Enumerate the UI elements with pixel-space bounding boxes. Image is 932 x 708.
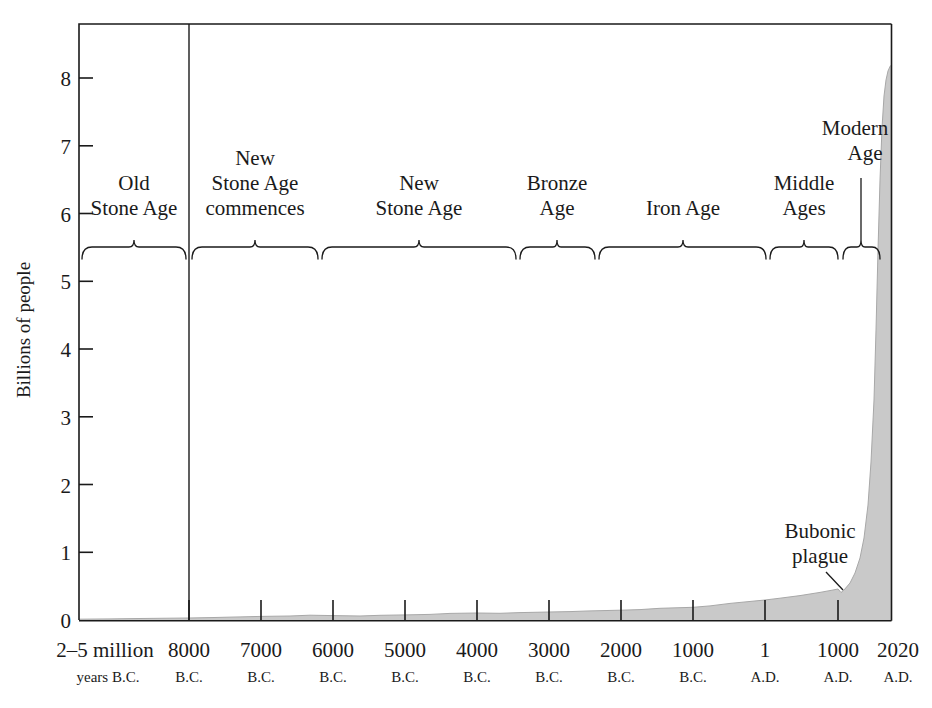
brace-modern-age: [843, 240, 880, 259]
brace-iron-age: [599, 240, 766, 259]
era-label-new-stone-commences-line1: New: [235, 146, 275, 170]
y-tick-label-3: 3: [61, 406, 72, 430]
x-tick-label-2-5-million-sub: years B.C.: [77, 669, 140, 685]
era-label-modern-age-line1: Modern: [822, 116, 889, 140]
brace-new-stone-age-commences: [192, 240, 318, 259]
x-axis-tick-labels: 2–5 million years B.C. 8000 B.C. 7000 B.…: [56, 638, 919, 685]
era-braces: [82, 240, 880, 259]
y-tick-label-5: 5: [61, 270, 72, 294]
bubonic-plague-annotation: Bubonic plague: [784, 519, 855, 590]
x-tick-label-1000bc-sub: B.C.: [679, 669, 707, 685]
x-tick-label-6000bc-sub: B.C.: [319, 669, 347, 685]
era-label-new-stone-age-line1: New: [399, 171, 439, 195]
era-label-new-stone-commences-line3: commences: [205, 196, 304, 220]
x-tick-label-8000bc-sub: B.C.: [175, 669, 203, 685]
brace-middle-ages: [770, 240, 838, 259]
x-tick-label-2000bc-main: 2000: [600, 638, 642, 662]
x-tick-label-3000bc-sub: B.C.: [535, 669, 563, 685]
y-tick-label-6: 6: [61, 203, 72, 227]
x-tick-label-1ad-main: 1: [760, 638, 771, 662]
brace-bronze-age: [520, 240, 595, 259]
era-label-middle-ages-line2: Ages: [782, 196, 825, 220]
y-axis-tick-labels: 8 7 6 5 4 3 2 1 0: [61, 67, 72, 633]
population-area-fill: [79, 65, 892, 620]
x-tick-label-1000bc-main: 1000: [672, 638, 714, 662]
y-tick-label-1: 1: [61, 541, 72, 565]
x-tick-label-1ad-sub: A.D.: [750, 669, 779, 685]
x-tick-label-7000bc-sub: B.C.: [247, 669, 275, 685]
chart-canvas: 8 7 6 5 4 3 2 1 0 Billions of people: [0, 0, 932, 708]
population-curve-line: [79, 65, 892, 619]
x-tick-label-5000bc-main: 5000: [384, 638, 426, 662]
bubonic-plague-label-line2: plague: [792, 544, 848, 568]
x-tick-label-4000bc-main: 4000: [456, 638, 498, 662]
y-tick-label-2: 2: [61, 474, 72, 498]
era-label-old-stone-age-line1: Old: [118, 171, 150, 195]
era-label-iron-age: Iron Age: [646, 196, 720, 220]
y-axis-ticks: [79, 78, 93, 552]
x-tick-label-1000ad-main: 1000: [817, 638, 859, 662]
x-tick-label-5000bc-sub: B.C.: [391, 669, 419, 685]
era-label-modern-age-line2: Age: [848, 141, 883, 165]
x-tick-label-7000bc-main: 7000: [240, 638, 282, 662]
plot-frame-top-left: [79, 24, 892, 620]
era-label-middle-ages-line1: Middle: [774, 171, 835, 195]
y-tick-label-8: 8: [61, 67, 72, 91]
brace-old-stone-age: [82, 240, 186, 259]
x-tick-label-8000bc-main: 8000: [168, 638, 210, 662]
x-tick-label-2000bc-sub: B.C.: [607, 669, 635, 685]
era-label-new-stone-commences-line2: Stone Age: [212, 171, 299, 195]
x-tick-label-2020ad-main: 2020: [877, 638, 919, 662]
x-tick-label-1000ad-sub: A.D.: [823, 669, 852, 685]
x-tick-label-2020ad-sub: A.D.: [883, 669, 912, 685]
era-label-new-stone-age-line2: Stone Age: [376, 196, 463, 220]
x-tick-label-4000bc-sub: B.C.: [463, 669, 491, 685]
era-label-bronze-age-line2: Age: [540, 196, 575, 220]
x-tick-label-6000bc-main: 6000: [312, 638, 354, 662]
era-labels: Old Stone Age New Stone Age commences Ne…: [91, 116, 889, 220]
population-growth-chart: 8 7 6 5 4 3 2 1 0 Billions of people: [0, 0, 932, 708]
era-label-old-stone-age-line2: Stone Age: [91, 196, 178, 220]
x-tick-label-3000bc-main: 3000: [528, 638, 570, 662]
y-tick-label-0: 0: [61, 609, 72, 633]
brace-new-stone-age: [322, 240, 516, 259]
era-label-bronze-age-line1: Bronze: [527, 171, 588, 195]
bubonic-plague-leader-line: [826, 572, 843, 590]
bubonic-plague-label-line1: Bubonic: [784, 519, 855, 543]
x-tick-label-2-5-million-main: 2–5 million: [56, 638, 154, 662]
y-axis-title: Billions of people: [13, 262, 34, 398]
y-tick-label-4: 4: [61, 338, 72, 362]
y-tick-label-7: 7: [61, 135, 72, 159]
